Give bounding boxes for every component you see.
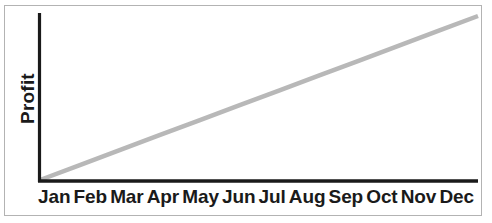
x-tick-label-oct: Oct: [366, 186, 397, 208]
chart-screenshot: Profit Jan Feb Mar Apr May Jun Jul Aug S…: [0, 0, 492, 223]
x-tick-label-sep: Sep: [329, 186, 364, 208]
x-tick-label-dec: Dec: [439, 186, 474, 208]
x-tick-label-jun: Jun: [222, 186, 255, 208]
x-axis-tick-labels: Jan Feb Mar Apr May Jun Jul Aug Sep Oct …: [38, 186, 474, 212]
x-tick-label-feb: Feb: [74, 186, 107, 208]
x-tick-label-jan: Jan: [38, 186, 70, 208]
x-tick-label-may: May: [182, 186, 219, 208]
x-tick-label-jul: Jul: [259, 186, 286, 208]
profit-trend-line: [40, 16, 478, 180]
x-tick-label-apr: Apr: [147, 186, 179, 208]
x-tick-label-aug: Aug: [289, 186, 326, 208]
chart-plot-area: Profit Jan Feb Mar Apr May Jun Jul Aug S…: [0, 0, 492, 223]
x-tick-label-nov: Nov: [401, 186, 437, 208]
x-tick-label-mar: Mar: [110, 186, 144, 208]
